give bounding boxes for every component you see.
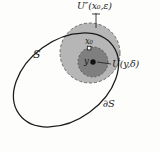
neighborhood-diagram: U″(x₀,ε) U(y,δ) S ∂S x₀ y [0,0,160,152]
inner-point-marker [90,59,95,64]
outer-neighborhood-label: U″(x₀,ε) [77,1,112,11]
center-point-label: x₀ [85,37,93,46]
boundary-label: ∂S [103,99,115,109]
region-label: S [33,49,40,60]
center-point-marker [87,46,91,50]
diagram-canvas [0,0,160,152]
inner-neighborhood-label: U(y,δ) [112,59,139,69]
inner-point-label: y [84,57,89,66]
